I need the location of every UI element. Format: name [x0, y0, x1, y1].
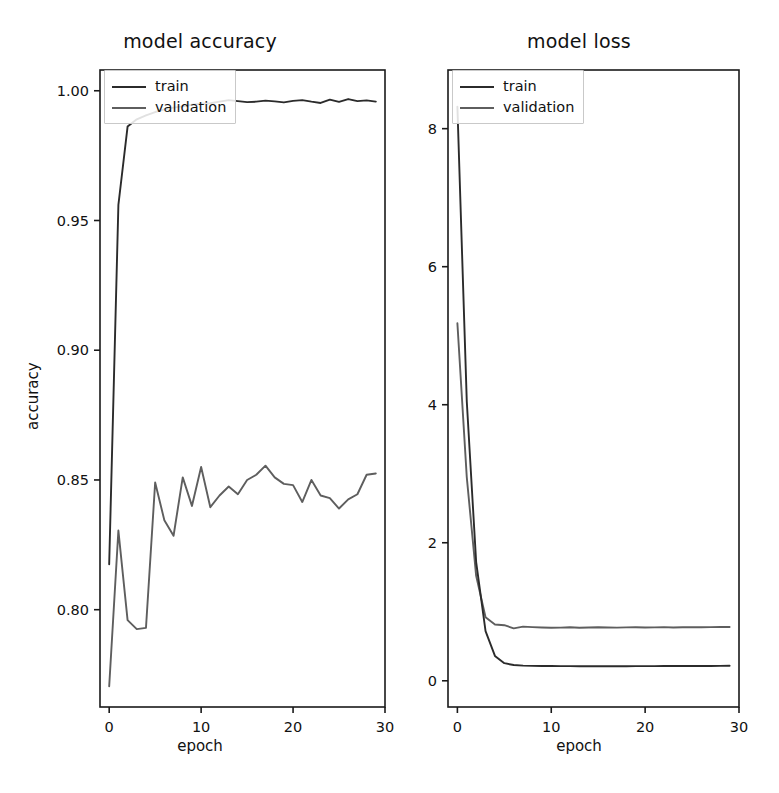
legend-label-validation: validation	[503, 97, 574, 118]
svg-text:0.80: 0.80	[57, 602, 89, 618]
svg-text:0: 0	[105, 719, 114, 735]
legend-row-validation: validation	[112, 97, 226, 118]
accuracy-xaxis-label: epoch	[0, 737, 400, 755]
svg-text:20: 20	[284, 719, 302, 735]
subplot-model-accuracy: model accuracy 0.800.850.900.951.0001020…	[0, 0, 400, 793]
accuracy-legend: train validation	[104, 70, 236, 124]
svg-text:0.85: 0.85	[57, 472, 89, 488]
svg-text:10: 10	[192, 719, 210, 735]
subplot-model-loss: model loss 024680102030 train validation…	[379, 0, 779, 793]
svg-text:1.00: 1.00	[57, 83, 89, 99]
svg-text:0.90: 0.90	[57, 342, 89, 358]
svg-text:6: 6	[428, 259, 437, 275]
train-line-swatch	[460, 86, 494, 88]
legend-label-train: train	[503, 76, 537, 97]
svg-text:4: 4	[428, 397, 437, 413]
loss-xaxis-label: epoch	[379, 737, 779, 755]
legend-row-train: train	[460, 76, 574, 97]
validation-line-swatch	[112, 107, 146, 109]
svg-text:0: 0	[453, 719, 462, 735]
legend-row-validation: validation	[460, 97, 574, 118]
legend-row-train: train	[112, 76, 226, 97]
svg-text:0.95: 0.95	[57, 213, 89, 229]
accuracy-yaxis-label: accuracy	[24, 362, 42, 430]
legend-label-train: train	[155, 76, 189, 97]
svg-text:10: 10	[542, 719, 560, 735]
matplotlib-figure: model accuracy 0.800.850.900.951.0001020…	[0, 0, 779, 793]
svg-text:30: 30	[730, 719, 748, 735]
svg-text:2: 2	[428, 535, 437, 551]
legend-label-validation: validation	[155, 97, 226, 118]
train-line-swatch	[112, 86, 146, 88]
svg-text:8: 8	[428, 121, 437, 137]
validation-line-swatch	[460, 107, 494, 109]
loss-legend: train validation	[452, 70, 584, 124]
svg-text:0: 0	[428, 673, 437, 689]
svg-text:20: 20	[636, 719, 654, 735]
